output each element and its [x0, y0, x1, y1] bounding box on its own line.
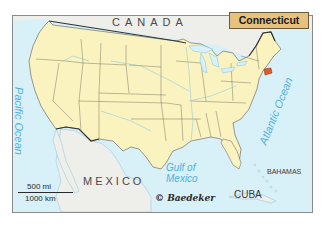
label-mexico: MEXICO — [83, 175, 144, 187]
scale-km: 1000 km — [18, 194, 73, 203]
scale-line — [18, 192, 73, 193]
label-canada: CANADA — [112, 16, 188, 28]
connecticut-highlight — [264, 68, 272, 75]
copyright-baedeker: © Baedeker — [155, 193, 215, 203]
label-bahamas: BAHAMAS — [267, 168, 301, 175]
label-pacific-ocean: Pacific Ocean — [13, 87, 25, 155]
label-gulf-line2: Mexico — [166, 173, 198, 184]
label-gulf-line1: Gulf of — [166, 162, 195, 173]
scale-miles: 500 mi — [18, 182, 73, 191]
scale-bar: 500 mi 1000 km — [18, 182, 73, 203]
state-title: Connecticut — [229, 12, 309, 29]
label-cuba: CUBA — [234, 189, 262, 200]
